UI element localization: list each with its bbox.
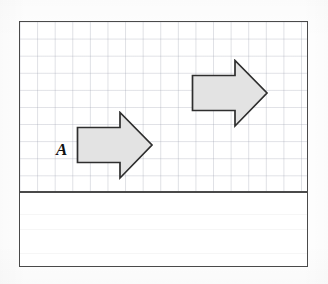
answer-band[interactable] [20,193,307,266]
grid-panel: A [20,22,307,191]
scan-artifact-line [20,229,307,230]
scan-artifact-line [20,214,307,215]
arrow-right-icon [76,111,154,181]
shape-label-a: A [56,141,67,158]
figure-page: A [0,0,328,284]
arrow-shape-a[interactable] [76,111,150,177]
arrow-shape-b[interactable] [191,59,265,125]
scan-artifact-line [20,253,307,254]
arrow-right-icon [191,59,269,129]
figure-outer-frame: A [19,21,308,267]
